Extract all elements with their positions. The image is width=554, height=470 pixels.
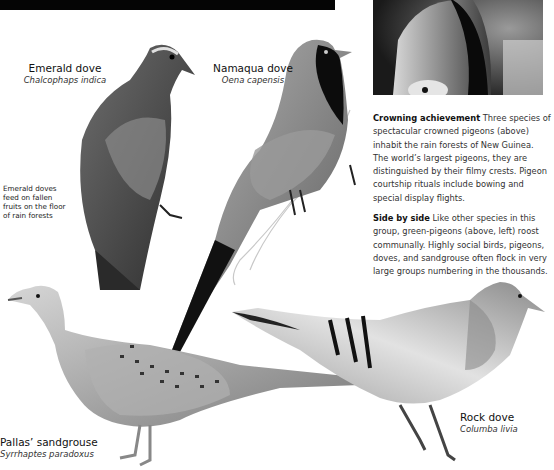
namaqua-dove-label: Namaqua dove Oena capensis xyxy=(213,62,293,86)
namaqua-dove-common-name: Namaqua dove xyxy=(213,62,293,75)
caption-heading: Crowning achievement xyxy=(373,113,480,123)
pallas-sandgrouse-label: Pallas’ sandgrouse Syrrhaptes paradoxus xyxy=(0,436,86,460)
emerald-dove-label: Emerald dove Chalcophaps indica xyxy=(20,62,110,86)
pallas-sandgrouse-latin-name: Syrrhaptes paradoxus xyxy=(0,449,86,460)
rock-dove-common-name: Rock dove xyxy=(460,411,528,424)
namaqua-dove-illustration xyxy=(170,40,355,355)
caption-heading: Side by side xyxy=(373,213,430,223)
emerald-dove-latin-name: Chalcophaps indica xyxy=(20,75,110,86)
caption-body: Three species of spectacular crowned pig… xyxy=(373,113,551,203)
emerald-dove-note: Emerald doves feed on fallen fruits on t… xyxy=(3,184,69,220)
caption-side-by-side: Side by side Like other species in this … xyxy=(373,212,551,278)
namaqua-dove-latin-name: Oena capensis xyxy=(213,75,293,86)
rock-dove-latin-name: Columba livia xyxy=(460,424,528,435)
pallas-sandgrouse-common-name: Pallas’ sandgrouse xyxy=(0,436,86,449)
rock-dove-label: Rock dove Columba livia xyxy=(460,411,528,435)
caption-crowning-achievement: Crowning achievement Three species of sp… xyxy=(373,112,551,205)
emerald-dove-common-name: Emerald dove xyxy=(20,62,110,75)
